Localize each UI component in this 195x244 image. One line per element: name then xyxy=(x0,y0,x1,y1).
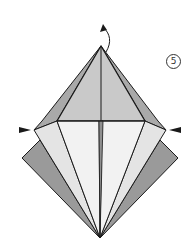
curved-arrow-shaft xyxy=(104,28,110,52)
push-arrow-right-icon xyxy=(169,127,181,133)
origami-diagram xyxy=(0,0,195,244)
push-arrow-left-icon xyxy=(19,127,31,133)
step-number-badge: 5 xyxy=(166,54,181,69)
top-pyramid xyxy=(34,46,166,130)
